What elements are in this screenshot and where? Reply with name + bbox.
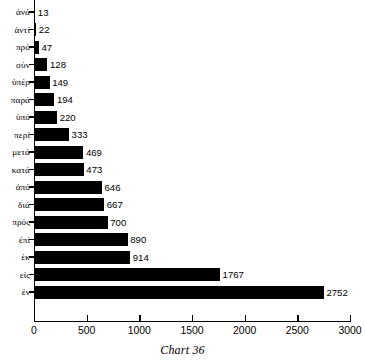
bar-value-label: 13 [35, 6, 48, 19]
chart-caption: Chart 36 [0, 343, 365, 358]
x-axis-tick [245, 315, 246, 322]
bar-row: κατά473 [0, 162, 365, 180]
category-label: περί [0, 127, 30, 145]
bar-value-label: 646 [102, 181, 121, 194]
x-axis-tick-label: 0 [11, 325, 57, 336]
bar-track: 646 [34, 181, 350, 194]
y-axis-tick [29, 64, 35, 65]
y-axis-tick [29, 151, 35, 152]
bar-row: εἰς1767 [0, 267, 365, 285]
y-axis-tick [29, 11, 35, 12]
y-axis-tick [29, 169, 35, 170]
category-label: μετά [0, 144, 30, 162]
category-label: διά [0, 197, 30, 215]
category-label: ἐπί [0, 232, 30, 250]
bar [34, 93, 54, 106]
bar-value-label: 194 [54, 93, 73, 106]
bar-row: παρά194 [0, 92, 365, 110]
bar-track: 194 [34, 93, 350, 106]
y-axis-tick [29, 204, 35, 205]
bar-row: πρός700 [0, 214, 365, 232]
bar-track: 149 [34, 76, 350, 89]
bar-value-label: 473 [84, 163, 103, 176]
category-label: ἀντί [0, 22, 30, 40]
bar-track: 473 [34, 163, 350, 176]
bar-row: ἐκ914 [0, 249, 365, 267]
bar-track: 890 [34, 233, 350, 246]
bar-value-label: 47 [39, 41, 52, 54]
bar [34, 216, 108, 229]
bar-row: ὑπό220 [0, 109, 365, 127]
bar-track: 469 [34, 146, 350, 159]
bar-track: 22 [34, 23, 350, 36]
y-axis-tick [29, 239, 35, 240]
category-label: ὑπό [0, 109, 30, 127]
bar-value-label: 667 [104, 198, 123, 211]
x-axis-tick-label: 1000 [116, 325, 162, 336]
bar-row: ἀντί22 [0, 22, 365, 40]
category-label: ἀπό [0, 179, 30, 197]
bar-track: 1767 [34, 268, 350, 281]
bar-row: σύν128 [0, 57, 365, 75]
bar-value-label: 1767 [220, 268, 244, 281]
bar [34, 58, 47, 71]
bar-track: 667 [34, 198, 350, 211]
bar-row: μετά469 [0, 144, 365, 162]
bar [34, 111, 57, 124]
x-axis-tick [297, 315, 298, 322]
x-axis-tick-label: 3000 [327, 325, 365, 336]
bar-row: περί333 [0, 127, 365, 145]
x-axis-tick [192, 315, 193, 322]
x-axis-tick [87, 315, 88, 322]
bar [34, 181, 102, 194]
category-label: κατά [0, 162, 30, 180]
bar-track: 47 [34, 41, 350, 54]
plot-area: ἀνά13ἀντί22πρό47σύν128ὑπέρ149παρά194ὑπό2… [0, 0, 365, 330]
bar-value-label: 220 [57, 111, 76, 124]
x-axis-tick-label: 2000 [222, 325, 268, 336]
y-axis-tick [29, 81, 35, 82]
bar-value-label: 149 [50, 76, 69, 89]
bar [34, 163, 84, 176]
bar-value-label: 128 [47, 58, 66, 71]
bar-track: 333 [34, 128, 350, 141]
bar-value-label: 2752 [324, 286, 348, 299]
y-axis-tick [29, 274, 35, 275]
x-axis-tick [350, 315, 351, 322]
x-axis-tick-label: 2500 [274, 325, 320, 336]
bar [34, 268, 220, 281]
bar-value-label: 22 [36, 23, 49, 36]
bar-track: 2752 [34, 286, 350, 299]
category-label: πρός [0, 214, 30, 232]
bar [34, 76, 50, 89]
bar-track: 914 [34, 251, 350, 264]
bar-track: 13 [34, 6, 350, 19]
bar-track: 220 [34, 111, 350, 124]
bar-value-label: 914 [130, 251, 149, 264]
category-label: πρό [0, 39, 30, 57]
bar-track: 128 [34, 58, 350, 71]
bar-row: διά667 [0, 197, 365, 215]
bar-row: ἀνά13 [0, 4, 365, 22]
bar-value-label: 333 [69, 128, 88, 141]
category-label: παρά [0, 92, 30, 110]
bar-track: 700 [34, 216, 350, 229]
x-axis-tick-label: 500 [64, 325, 110, 336]
x-axis-tick-label: 1500 [169, 325, 215, 336]
y-axis-tick [29, 291, 35, 292]
x-axis-tick [34, 315, 35, 322]
bar-row: πρό47 [0, 39, 365, 57]
y-axis-tick [29, 186, 35, 187]
bar [34, 251, 130, 264]
bar [34, 286, 324, 299]
y-axis-tick [29, 256, 35, 257]
bar-row: ἐπί890 [0, 232, 365, 250]
y-axis-tick [29, 116, 35, 117]
category-label: εἰς [0, 267, 30, 285]
y-axis-tick [29, 134, 35, 135]
category-label: ἀνά [0, 4, 30, 22]
category-label: σύν [0, 57, 30, 75]
bar-value-label: 469 [83, 146, 102, 159]
bar [34, 146, 83, 159]
bar [34, 128, 69, 141]
